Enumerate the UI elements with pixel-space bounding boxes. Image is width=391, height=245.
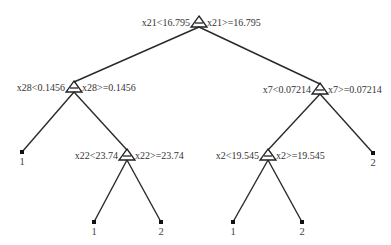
split-left-label: x7<0.07214	[263, 84, 311, 95]
leaf-dot-icon	[92, 220, 96, 224]
leaf-class-label: 1	[19, 156, 24, 167]
tree-edge	[74, 27, 199, 82]
tree-edge	[22, 92, 74, 152]
leaf-class-label: 2	[299, 226, 304, 237]
split-left-label: x22<23.74	[75, 150, 118, 161]
tree-edge	[94, 160, 127, 222]
triangle-node-icon	[119, 149, 135, 160]
leaf-node: 1	[91, 220, 96, 237]
tree-edge	[199, 27, 320, 84]
leaf-dot-icon	[20, 150, 24, 154]
leaf-class-label: 2	[158, 226, 163, 237]
tree-edge	[74, 92, 127, 150]
triangle-node-icon	[66, 81, 82, 92]
tree-nodes: x21<16.795x21>=16.795x28<0.1456x28>=0.14…	[17, 16, 382, 237]
split-right-label: x7>=0.07214	[328, 84, 382, 95]
tree-edge	[233, 160, 268, 222]
split-right-label: x22>=23.74	[135, 150, 184, 161]
tree-edge	[268, 94, 320, 150]
leaf-dot-icon	[371, 151, 375, 155]
leaf-dot-icon	[159, 220, 163, 224]
split-node: x21<16.795x21>=16.795	[142, 16, 261, 28]
split-node: x7<0.07214x7>=0.07214	[263, 83, 382, 95]
split-node: x2<19.545x2>=19.545	[216, 149, 325, 161]
leaf-dot-icon	[231, 220, 235, 224]
leaf-dot-icon	[300, 220, 304, 224]
leaf-node: 2	[370, 151, 375, 168]
split-left-label: x21<16.795	[142, 17, 190, 28]
triangle-node-icon	[260, 149, 276, 160]
tree-edges	[22, 27, 373, 222]
leaf-node: 2	[299, 220, 304, 237]
split-node: x28<0.1456x28>=0.1456	[17, 81, 136, 93]
split-right-label: x21>=16.795	[207, 17, 261, 28]
leaf-class-label: 1	[91, 226, 96, 237]
split-node: x22<23.74x22>=23.74	[75, 149, 184, 161]
leaf-class-label: 1	[230, 226, 235, 237]
leaf-class-label: 2	[370, 157, 375, 168]
triangle-node-icon	[191, 16, 207, 27]
leaf-node: 2	[158, 220, 163, 237]
split-left-label: x28<0.1456	[17, 82, 65, 93]
tree-edge	[320, 94, 373, 153]
split-right-label: x2>=19.545	[276, 150, 325, 161]
decision-tree: x21<16.795x21>=16.795x28<0.1456x28>=0.14…	[0, 0, 391, 245]
leaf-node: 1	[230, 220, 235, 237]
tree-edge	[268, 160, 302, 222]
tree-edge	[127, 160, 161, 222]
split-right-label: x28>=0.1456	[82, 82, 136, 93]
split-left-label: x2<19.545	[216, 150, 259, 161]
leaf-node: 1	[19, 150, 24, 167]
triangle-node-icon	[312, 83, 328, 94]
